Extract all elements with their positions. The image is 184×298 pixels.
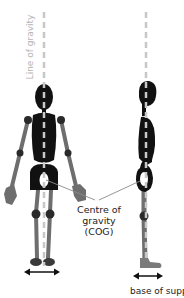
cog-label-line-2: gravity — [74, 215, 124, 226]
side-figure — [136, 81, 162, 268]
side-head — [139, 81, 156, 106]
centre-of-gravity-label: Centre of gravity (COG) — [74, 204, 124, 237]
cog-diagram: Line of gravity Centre of gravity (COG) … — [0, 0, 184, 298]
cog-label-line-3: (COG) — [74, 226, 124, 237]
cog-label-line-1: Centre of — [74, 204, 124, 215]
cog-pointer-lines — [46, 180, 140, 200]
left-hand — [4, 184, 17, 205]
front-base-arrow — [24, 269, 60, 276]
left-foot — [30, 258, 42, 266]
base-of-support-label: base of support — [130, 286, 184, 297]
side-base-arrow — [133, 273, 163, 280]
line-of-gravity-label: Line of gravity — [25, 15, 35, 80]
side-foot — [140, 258, 162, 268]
